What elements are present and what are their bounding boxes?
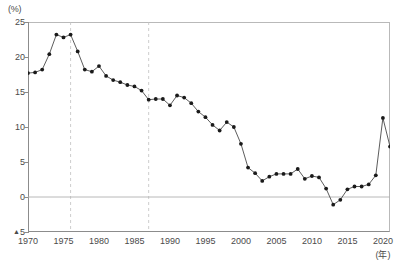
x-tick-label: 1995 [195, 236, 215, 246]
data-point-marker [189, 101, 193, 105]
data-point-marker [54, 33, 58, 37]
data-point-marker [111, 78, 115, 82]
y-tick-label: 10 [0, 122, 25, 132]
data-point-marker [218, 129, 222, 133]
data-point-marker [97, 64, 101, 68]
data-point-marker [331, 203, 335, 207]
data-point-marker [353, 185, 357, 189]
data-point-marker [232, 125, 236, 129]
series-markers [28, 33, 390, 207]
data-point-marker [118, 80, 122, 84]
data-point-marker [360, 185, 364, 189]
data-point-marker [154, 97, 158, 101]
data-point-marker [90, 70, 94, 74]
chart-container: (%) 2520151050▲5197019751980198519901995… [0, 0, 403, 266]
data-point-marker [40, 68, 44, 72]
data-point-marker [104, 74, 108, 78]
data-point-marker [310, 174, 314, 178]
data-point-marker [338, 198, 342, 202]
data-point-marker [267, 175, 271, 179]
x-tick-label: 1990 [160, 236, 180, 246]
reference-lines-layer [71, 22, 149, 232]
data-point-marker [76, 50, 80, 54]
data-point-marker [317, 176, 321, 180]
data-point-marker [33, 71, 37, 75]
data-point-marker [324, 187, 328, 191]
x-tick-label: 1980 [89, 236, 109, 246]
data-point-marker [125, 83, 129, 87]
line-series-plot [28, 22, 390, 232]
data-point-marker [140, 89, 144, 93]
x-axis-unit-label: (年) [375, 248, 390, 261]
y-tick-label: 15 [0, 87, 25, 97]
y-tick-label: 0 [0, 192, 25, 202]
series-line [28, 35, 390, 205]
x-tick-label: 1975 [53, 236, 73, 246]
data-point-marker [246, 166, 250, 170]
data-point-marker [147, 98, 151, 102]
data-point-marker [196, 110, 200, 114]
data-point-marker [374, 173, 378, 177]
x-tick-label: 2015 [337, 236, 357, 246]
y-tick-mark [24, 232, 29, 233]
data-point-marker [346, 187, 350, 191]
data-point-marker [133, 85, 137, 89]
data-point-marker [367, 183, 371, 187]
y-axis-unit-label: (%) [8, 4, 21, 14]
data-point-marker [28, 71, 30, 75]
data-point-marker [388, 145, 390, 149]
data-point-marker [239, 142, 243, 146]
data-point-marker [69, 33, 73, 37]
y-tick-label: 5 [0, 157, 25, 167]
data-point-marker [296, 167, 300, 171]
data-point-marker [211, 123, 215, 127]
x-tick-label: 1970 [18, 236, 38, 246]
data-point-marker [381, 116, 385, 120]
data-point-marker [289, 172, 293, 176]
y-tick-label: 20 [0, 52, 25, 62]
data-point-marker [204, 115, 208, 119]
x-tick-label: 2005 [266, 236, 286, 246]
data-point-marker [275, 172, 279, 176]
data-point-marker [175, 94, 179, 98]
data-point-marker [168, 103, 172, 107]
data-point-marker [182, 96, 186, 100]
data-point-marker [83, 68, 87, 72]
data-point-marker [225, 120, 229, 124]
x-tick-label: 1985 [124, 236, 144, 246]
data-point-marker [260, 179, 264, 183]
data-point-marker [253, 171, 257, 175]
data-point-marker [62, 36, 66, 40]
data-point-marker [303, 177, 307, 181]
data-point-marker [161, 97, 165, 101]
x-tick-label: 2010 [302, 236, 322, 246]
y-tick-label: 25 [0, 17, 25, 27]
data-point-marker [47, 52, 51, 56]
x-tick-label: 2020 [373, 236, 393, 246]
x-tick-label: 2000 [231, 236, 251, 246]
data-point-marker [282, 172, 286, 176]
